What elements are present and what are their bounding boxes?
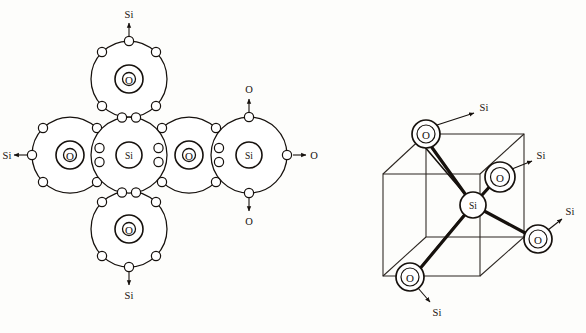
external-label-o-top-right: O bbox=[245, 84, 253, 113]
external-o-top-text: O bbox=[245, 84, 253, 95]
o-top-electron-se bbox=[151, 101, 160, 110]
si-right-electron-s bbox=[244, 188, 253, 197]
o-right-label: O bbox=[185, 150, 193, 162]
cube-front-face bbox=[383, 174, 480, 276]
si-center-label: Si bbox=[125, 151, 133, 161]
shared-electron-a bbox=[117, 188, 126, 197]
shared-electron-a bbox=[154, 143, 163, 152]
si-right-label: Si bbox=[245, 151, 253, 161]
o-bottom-label: O bbox=[125, 224, 133, 236]
external-si-bottom-text: Si bbox=[125, 290, 134, 301]
si-label-front-bottom: Si bbox=[433, 307, 442, 318]
bond-guide-back-top-left bbox=[424, 146, 470, 200]
o-bottom-electron-sw bbox=[97, 251, 106, 260]
o-top-electron-n bbox=[124, 36, 133, 45]
external-o-right-text: O bbox=[310, 150, 318, 161]
cube-atom-o-front-top-right: O Si bbox=[485, 150, 545, 193]
o-back-top-left-label: O bbox=[422, 129, 430, 141]
o-bottom-electron-s bbox=[124, 262, 133, 271]
o-top-electron-nw bbox=[97, 47, 106, 56]
cube-atom-o-front-bottom: O Si bbox=[396, 263, 441, 318]
si-right-electron-n bbox=[244, 112, 253, 121]
external-label-si-left: Si bbox=[3, 150, 27, 161]
external-label-si-bottom: Si bbox=[125, 272, 134, 301]
shared-electron-b bbox=[95, 157, 104, 166]
arrow-si-front-top-right bbox=[512, 161, 532, 169]
shared-electron-a bbox=[117, 113, 126, 122]
shared-electron-a bbox=[214, 143, 223, 152]
arrow-si-front-bottom bbox=[418, 288, 430, 302]
o-top-electron-ne bbox=[151, 47, 160, 56]
atom-o-bottom: O bbox=[91, 191, 167, 272]
atom-o-top: O bbox=[91, 36, 167, 117]
o-left-electron-sw bbox=[38, 177, 47, 186]
si-right-electron-e bbox=[282, 150, 291, 159]
arrow-si-back-top-left bbox=[437, 113, 474, 125]
atom-si-right: Si bbox=[211, 112, 292, 197]
si-label-back-top-left: Si bbox=[480, 102, 489, 113]
cube-edge-br bbox=[480, 237, 524, 276]
external-label-si-top: Si bbox=[125, 9, 134, 37]
atom-si-center: Si bbox=[91, 117, 167, 193]
external-label-o-bottom-right: O bbox=[245, 198, 253, 227]
arrow-si-right-lower bbox=[548, 219, 562, 230]
external-si-left-text: Si bbox=[3, 150, 12, 161]
si-cube-center-label: Si bbox=[469, 201, 477, 211]
o-right-lower-label: O bbox=[534, 234, 542, 246]
o-top-label: O bbox=[125, 74, 133, 86]
cube-atom-o-back-top-left: O Si bbox=[412, 102, 488, 149]
shared-electron-b bbox=[154, 157, 163, 166]
cube-atom-si-center: Si bbox=[460, 192, 486, 218]
figure-root: O O bbox=[0, 0, 586, 333]
o-front-top-right-label: O bbox=[496, 172, 504, 184]
sio2-figure-svg: O O bbox=[0, 0, 586, 333]
o-bottom-electron-se bbox=[151, 251, 160, 260]
cube-wireframe bbox=[383, 134, 524, 276]
shared-electron-a bbox=[95, 143, 104, 152]
cube-atom-o-right-lower: O Si bbox=[524, 206, 574, 254]
external-label-o-right: O bbox=[293, 150, 318, 161]
o-top-electron-sw bbox=[97, 101, 106, 110]
external-si-top-text: Si bbox=[125, 9, 134, 20]
si-label-front-top-right: Si bbox=[537, 150, 546, 161]
o-bottom-electron-ne bbox=[151, 197, 160, 206]
shared-electron-b bbox=[131, 188, 140, 197]
si-label-right-lower: Si bbox=[566, 206, 575, 217]
external-o-bottom-text: O bbox=[245, 216, 253, 227]
o-left-electron-nw bbox=[38, 123, 47, 132]
left-panel-group: O O bbox=[3, 9, 319, 301]
bond-guide-front-bottom bbox=[416, 210, 468, 273]
o-front-bottom-label: O bbox=[406, 272, 414, 284]
o-bottom-electron-nw bbox=[97, 197, 106, 206]
o-left-electron-w bbox=[27, 150, 36, 159]
shared-electron-b bbox=[214, 157, 223, 166]
o-left-label: O bbox=[66, 150, 74, 162]
shared-electron-b bbox=[131, 113, 140, 122]
right-panel-group: O Si O Si O Si O bbox=[383, 102, 574, 318]
